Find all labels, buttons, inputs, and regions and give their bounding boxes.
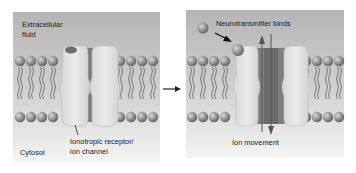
neurotransmitter-free — [198, 23, 209, 34]
extracellular-label-line1: Extracellular — [22, 20, 63, 29]
neurotransmitter-label: Neurotransmitter binds — [216, 19, 291, 28]
cytosol-label: Cytosol — [20, 148, 45, 157]
ionotropic-receptor-diagram: Extracellular fluid Ionotropic receptor/… — [0, 0, 356, 173]
transition-arrow-icon — [163, 86, 181, 92]
ion-movement-label: Ion movement — [232, 138, 279, 147]
left-panel-closed-channel: Extracellular fluid Ionotropic receptor/… — [13, 12, 160, 162]
neurotransmitter-bound — [232, 44, 244, 56]
receptor-label-line2: ion channel — [70, 147, 108, 156]
binding-site — [65, 47, 77, 54]
ion-channel-open — [234, 46, 310, 126]
receptor-label-line1: Ionotropic receptor/ — [70, 137, 135, 146]
right-panel-open-channel: Neurotransmitter binds Ion movement — [186, 10, 344, 158]
extracellular-label-line2: fluid — [22, 30, 36, 39]
ion-channel-closed — [60, 46, 120, 126]
